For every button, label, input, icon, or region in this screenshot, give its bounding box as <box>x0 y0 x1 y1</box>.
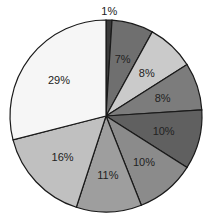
slice-label: 16% <box>52 151 74 163</box>
slice-label: 10% <box>133 156 155 168</box>
pie-slices <box>10 20 202 212</box>
slice-label: 1% <box>101 5 117 17</box>
slice-label: 29% <box>48 74 70 86</box>
slice-label: 11% <box>97 169 118 181</box>
slice-label: 8% <box>139 67 155 79</box>
pie-chart: 1%7%8%8%10%10%11%16%29% <box>0 0 209 220</box>
slice-label: 10% <box>153 125 175 137</box>
slice-label: 8% <box>155 92 171 104</box>
slice-label: 7% <box>115 53 131 65</box>
